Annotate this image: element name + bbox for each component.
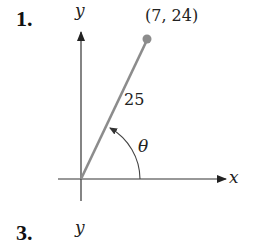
x-axis-label: x [229, 169, 239, 186]
point-label: (7, 24) [145, 8, 198, 24]
y-axis-label: y [75, 2, 85, 19]
angle-label: θ [138, 138, 148, 155]
terminal-side-line [81, 40, 147, 179]
problem-number: 1. [16, 8, 33, 30]
angle-arc [110, 128, 140, 179]
problem-number: 3. [16, 222, 33, 240]
diagram-canvas [0, 0, 256, 240]
hypotenuse-label: 25 [124, 92, 144, 108]
point-marker [143, 35, 152, 44]
y-axis-label: y [75, 219, 85, 236]
